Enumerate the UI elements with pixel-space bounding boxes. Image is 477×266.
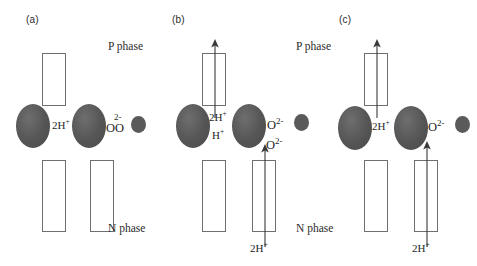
panel-b-oxygen-lower-label: O2- [266, 139, 283, 152]
panel-b-right-ellipse [232, 104, 266, 148]
panel-a-left-ellipse [16, 104, 50, 148]
panel-a-top-rect [42, 53, 66, 106]
panel-b-proton-bottom-text: H [212, 129, 220, 141]
panel-a-oxygen-text: OO [106, 121, 124, 135]
panel-b-proton-bottom-charge: + [220, 127, 224, 136]
panel-a-oxygen-label: OO2- [106, 122, 124, 135]
p-phase-label-right: P phase [296, 40, 331, 52]
panel-a-right-ellipse [72, 104, 106, 148]
panel-b-bottom-left-rect [202, 160, 226, 232]
panel-b-proton-influx-text: 2H [250, 242, 263, 254]
n-phase-label-left: N phase [108, 222, 145, 234]
n-phase-label-right: N phase [296, 222, 333, 234]
panel-c-bottom-arrow [418, 140, 436, 247]
panel-c-oxygen-text: O [428, 120, 437, 134]
panel-c-left-ellipse [338, 106, 372, 150]
panel-b-proton-bottom-label: H+ [212, 130, 224, 141]
panel-b-proton-top-label: 2H+ [209, 112, 227, 123]
panel-b-left-ellipse [176, 104, 210, 148]
panel-c-top-arrow [368, 38, 386, 118]
figure-canvas: (a) 2H+ OO2- P phase N phase (b) [0, 0, 477, 266]
panel-c-proton-charge: + [385, 118, 389, 127]
panel-c-proton-influx-charge: + [425, 240, 429, 249]
panel-c-proton-influx-label: 2H+ [412, 243, 430, 254]
panel-a-oxygen-dot [131, 116, 146, 133]
panel-c-proton-influx-text: 2H [412, 242, 425, 254]
panel-a-proton-text: 2H [52, 119, 65, 131]
panel-c-label: (c) [339, 14, 351, 25]
panel-b-bottom-arrow [256, 143, 274, 247]
panel-c-oxygen-dot [455, 116, 470, 133]
panel-b-proton-top-charge: + [222, 109, 226, 118]
panel-a-label: (a) [26, 14, 39, 25]
panel-c-proton-label: 2H+ [372, 121, 390, 132]
panel-a-proton-charge: + [65, 117, 69, 126]
panel-b-proton-influx-label: 2H+ [250, 243, 268, 254]
panel-a-bottom-left-rect [42, 160, 66, 232]
panel-c-oxygen-charge: 2- [437, 118, 445, 128]
p-phase-label-left: P phase [108, 40, 143, 52]
panel-b-proton-influx-charge: + [263, 240, 267, 249]
panel-b-top-arrow [206, 38, 224, 118]
panel-b-proton-top-text: 2H [209, 111, 222, 123]
panel-b-oxygen-upper-label: O2- [267, 119, 284, 132]
panel-b-label: (b) [172, 14, 185, 25]
panel-c-proton-text: 2H [372, 120, 385, 132]
panel-b-oxygen-lower-charge: 2- [275, 136, 283, 146]
panel-c-bottom-left-rect [364, 160, 388, 232]
panel-b-oxygen-lower-text: O [266, 138, 275, 152]
panel-b-oxygen-upper-charge: 2- [276, 116, 284, 126]
panel-b-oxygen-upper-text: O [267, 118, 276, 132]
panel-b-oxygen-dot [294, 114, 309, 131]
panel-c-oxygen-label: O2- [428, 121, 445, 134]
panel-a-proton-label: 2H+ [52, 120, 70, 131]
